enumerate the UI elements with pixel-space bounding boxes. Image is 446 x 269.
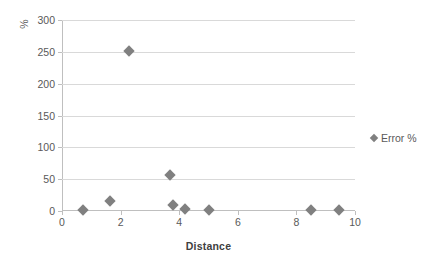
x-axis-tick-label: 2 (118, 216, 124, 228)
x-axis-tick-mark (296, 211, 297, 215)
y-axis-tick-mark (58, 147, 62, 148)
y-axis-tick-label: 200 (37, 78, 55, 90)
y-axis-tick-mark (58, 179, 62, 180)
x-axis-tick-mark (62, 211, 63, 215)
x-axis-tick-mark (355, 211, 356, 215)
gridline (62, 116, 355, 117)
x-axis-tick-mark (238, 211, 239, 215)
x-axis-title: Distance (62, 240, 355, 252)
x-axis-tick-label: 0 (59, 216, 65, 228)
gridline (62, 179, 355, 180)
x-axis-tick-mark (179, 211, 180, 215)
data-point (124, 45, 135, 56)
y-axis-tick-mark (58, 116, 62, 117)
data-point (333, 204, 344, 215)
data-point (203, 205, 214, 216)
y-axis-tick-label: 300 (37, 14, 55, 26)
x-axis-tick-label: 8 (293, 216, 299, 228)
gridline (62, 52, 355, 53)
y-axis-tick-mark (58, 84, 62, 85)
gridline (62, 84, 355, 85)
legend-entry-label: Error % (381, 132, 417, 144)
data-point (305, 204, 316, 215)
x-axis-tick-mark (121, 211, 122, 215)
y-axis-tick-mark (58, 52, 62, 53)
y-axis-tick-label: 150 (37, 110, 55, 122)
data-point (179, 203, 190, 214)
x-axis-tick-label: 4 (176, 216, 182, 228)
data-point (77, 204, 88, 215)
y-axis-tick-label: 50 (43, 173, 55, 185)
chart-legend: Error % (371, 132, 417, 144)
x-axis-tick-label: 10 (349, 216, 361, 228)
x-axis-tick-label: 6 (235, 216, 241, 228)
plot-area: 050100150200250300 0246810 (62, 20, 355, 211)
y-axis-tick-mark (58, 20, 62, 21)
y-axis-tick-label: 250 (37, 46, 55, 58)
y-axis-title: % (18, 14, 30, 34)
y-axis-tick-label: 100 (37, 141, 55, 153)
gridline (62, 147, 355, 148)
scatter-chart: % 050100150200250300 0246810 Distance Er… (0, 0, 446, 269)
gridline (62, 20, 355, 21)
data-point (105, 195, 116, 206)
y-axis-tick-label: 0 (49, 205, 55, 217)
legend-diamond-icon (370, 134, 378, 142)
